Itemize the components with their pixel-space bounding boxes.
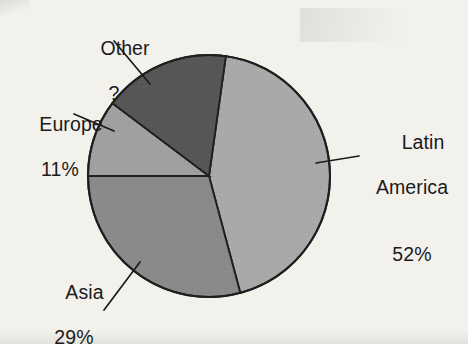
pie-label-asia: Asia 29% [30, 258, 118, 344]
pie-label-asia-name: Asia [65, 281, 103, 303]
pie-label-latin-america-value: 52% [360, 243, 464, 266]
pie-label-europe: Europe 11% [8, 90, 112, 225]
pie-label-europe-name: Europe [39, 113, 102, 135]
pie-label-latin-america-name-line2: America [360, 176, 464, 199]
pie-label-europe-value: 11% [8, 158, 112, 181]
pie-label-other-name: Other [100, 37, 149, 59]
pie-chart-figure: Other ? Europe 11% Asia 29% Latin Americ… [0, 0, 468, 344]
pie-label-asia-value: 29% [30, 326, 118, 344]
pie-label-latin-america-name-line1: Latin [402, 131, 445, 153]
pie-label-latin-america: Latin America 52% [360, 108, 464, 311]
